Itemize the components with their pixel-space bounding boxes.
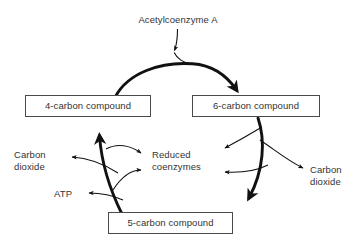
arrow-acetyl-coa-input bbox=[175, 29, 178, 51]
node-5-carbon-compound: 5-carbon compound bbox=[108, 212, 233, 234]
diagram-arrows-layer bbox=[0, 0, 361, 246]
node-6-carbon-compound: 6-carbon compound bbox=[192, 95, 320, 117]
arrow-c5-to-atp bbox=[89, 193, 123, 200]
label-reduced-coenzymes: Reduced coenzymes bbox=[152, 149, 210, 172]
label-atp: ATP bbox=[54, 188, 80, 200]
arrow-c5-to-reduced-coenzymes-upper bbox=[106, 146, 141, 153]
arrow-c5-to-carbon-dioxide bbox=[72, 157, 118, 173]
arrow-c6-to-c5 bbox=[249, 118, 262, 198]
label-acetylcoenzyme-a: Acetylcoenzyme A bbox=[122, 14, 234, 26]
krebs-cycle-diagram: 4-carbon compound 6-carbon compound 5-ca… bbox=[0, 0, 361, 246]
label-carbon-dioxide-left: Carbon dioxide bbox=[14, 149, 62, 172]
node-4-carbon-compound: 4-carbon compound bbox=[25, 95, 151, 117]
label-carbon-dioxide-right: Carbon dioxide bbox=[310, 164, 358, 187]
arrow-c6-to-carbon-dioxide bbox=[260, 140, 303, 168]
arrow-c5-to-c4 bbox=[100, 136, 123, 214]
arrow-c6-to-reduced-coenzymes bbox=[225, 127, 262, 148]
arrow-c4-to-c6 bbox=[116, 64, 237, 97]
